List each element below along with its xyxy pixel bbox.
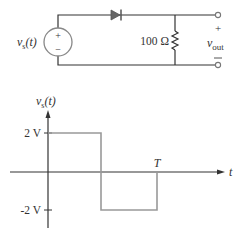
tick-label-neg2v: -2 V <box>20 204 41 216</box>
diode-icon <box>111 10 121 21</box>
y-axis-arrow-icon <box>46 110 51 118</box>
period-label: T <box>154 156 162 170</box>
resistor-icon <box>172 15 178 65</box>
source-plus: + <box>55 30 61 41</box>
resistor-label: 100 Ω <box>140 35 169 47</box>
tick-label-2v: 2 V <box>24 127 41 139</box>
source-minus: − <box>55 44 61 55</box>
output-plus: + <box>215 22 221 34</box>
source-label: vs(t) <box>17 35 37 51</box>
circuit-diagram: + − vs(t) 100 Ω + vout <box>17 10 224 68</box>
output-label: vout <box>207 36 224 52</box>
waveform-graph: vs(t) t 2 V -2 V T <box>10 94 233 228</box>
output-terminal-top <box>215 12 220 17</box>
bottom-wire <box>58 56 218 65</box>
t-axis-label: t <box>229 165 233 179</box>
output-terminal-bottom <box>215 62 220 67</box>
figure: + − vs(t) 100 Ω + vout vs(t) t <box>0 0 251 242</box>
y-axis-label: vs(t) <box>36 94 56 110</box>
top-wire <box>58 15 218 28</box>
t-axis-arrow-icon <box>217 170 225 175</box>
